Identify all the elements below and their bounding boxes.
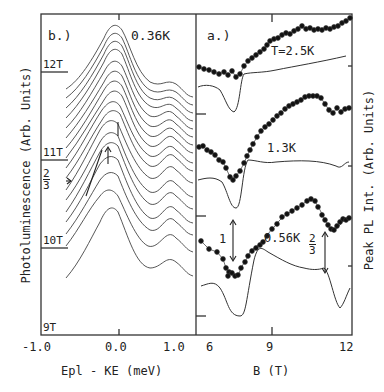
field-label-12T: 12T <box>43 58 63 71</box>
series-1.3K <box>197 94 352 183</box>
temp-label-1.3K: 1.3K <box>267 141 296 155</box>
fraction-denominator: 3 <box>309 245 316 256</box>
x-tick-right-6: 6 <box>206 340 213 354</box>
annotation-filling-2-3: 2 3 <box>309 233 316 256</box>
x-tick-right-9: 9 <box>266 340 273 354</box>
x-tick-right-12: 12 <box>339 340 353 354</box>
field-label-11T: 11T <box>43 146 63 159</box>
fraction-denominator: 3 <box>43 180 50 191</box>
y-axis-label-left: Photoluminescence (Arb. Units) <box>19 67 33 284</box>
filling-fraction-b: 2 3 <box>43 168 50 191</box>
field-label-9T: 9T <box>43 321 56 334</box>
annotation-filling-1: 1 <box>219 232 226 246</box>
temp-label-2.5K: T=2.5K <box>271 44 314 58</box>
panel-b-label: b.) <box>48 28 71 43</box>
panel-b-spectra <box>66 25 193 278</box>
x-axis-label-left: Epl - KE (meV) <box>61 364 162 378</box>
x-tick-left-minus1: -1.0 <box>22 340 51 354</box>
x-tick-left-1: 1.0 <box>163 340 185 354</box>
x-axis-label-right: B (T) <box>253 364 289 378</box>
field-label-10T: 10T <box>43 234 63 247</box>
panel-b-temperature: 0.36K <box>131 28 170 43</box>
y-axis-label-right: Peak PL Int. (Arb. Units) <box>362 90 376 271</box>
temp-label-0.56K: 0.56K <box>264 231 300 245</box>
panel-a-lines <box>198 56 350 316</box>
x-tick-left-0: 0.0 <box>105 340 127 354</box>
panel-a-label: a.) <box>207 28 230 43</box>
marker-group <box>197 94 352 183</box>
